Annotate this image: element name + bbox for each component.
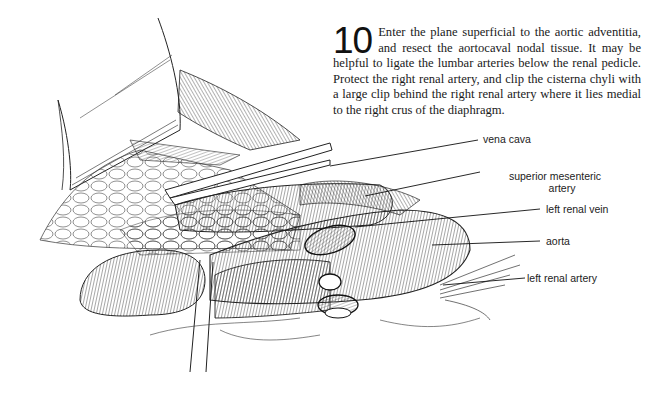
left-vessel [80, 250, 205, 316]
label-left-renal-vein: left renal vein [546, 203, 608, 215]
step-text: Enter the plane superficial to the aorti… [333, 25, 641, 117]
textbook-page: 10 Enter the plane superficial to the ao… [0, 0, 645, 395]
step-number: 10 [333, 26, 372, 56]
muscle-fibers [178, 70, 300, 150]
label-sma-line1: superior mesenteric [500, 170, 610, 182]
retroperitoneum [150, 318, 480, 340]
label-left-renal-artery: left renal artery [527, 272, 597, 284]
lumbar-artery-stump [319, 274, 341, 290]
label-vena-cava: vena cava [483, 133, 531, 145]
label-sma-line2: artery [500, 182, 610, 194]
label-aorta: aorta [546, 235, 570, 247]
step-instruction: 10 Enter the plane superficial to the ao… [333, 25, 641, 119]
label-superior-mesenteric-artery: superior mesenteric artery [500, 170, 610, 194]
